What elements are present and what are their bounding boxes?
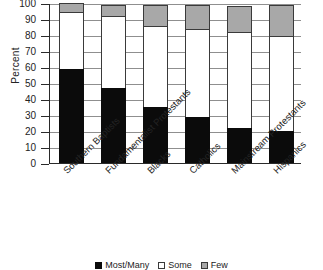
bar-segment-few [59, 3, 84, 13]
legend-label: Most/Many [105, 261, 149, 270]
y-tick-label: 100 [4, 0, 36, 9]
y-tick-label: 80 [4, 31, 36, 41]
bar-segment-few [143, 5, 168, 27]
bar-segment-few [269, 5, 294, 37]
bar-segment-few [101, 5, 126, 18]
gray-square-icon [201, 262, 208, 269]
y-tick-mark [41, 84, 49, 85]
x-axis-labels: Southern BaptistsFundamentalist Protesta… [0, 168, 323, 244]
bar-4 [185, 5, 210, 163]
y-tick-mark [41, 132, 49, 133]
bar-segment-some [185, 30, 210, 116]
bar-5 [227, 6, 252, 163]
y-tick-label: 20 [4, 127, 36, 137]
y-tick-label: 90 [4, 15, 36, 25]
legend-label: Some [168, 261, 192, 270]
y-tick-mark [41, 36, 49, 37]
bar-segment-some [101, 17, 126, 87]
stacked-bar-chart: Percent 0102030405060708090100 Southern … [0, 0, 323, 270]
y-tick-label: 50 [4, 79, 36, 89]
bar-segment-some [59, 13, 84, 69]
y-tick-mark [41, 164, 49, 165]
y-tick-mark [41, 68, 49, 69]
y-tick-mark [41, 52, 49, 53]
chart-legend: Most/ManySomeFew [0, 261, 323, 270]
white-square-icon [158, 262, 165, 269]
black-square-icon [95, 262, 102, 269]
y-tick-label: 40 [4, 95, 36, 105]
y-tick-label: 30 [4, 111, 36, 121]
y-tick-label: 70 [4, 47, 36, 57]
bar-segment-few [227, 6, 252, 33]
y-tick-mark [41, 148, 49, 149]
legend-item-most-many: Most/Many [95, 261, 149, 270]
y-tick-mark [41, 116, 49, 117]
y-tick-mark [41, 20, 49, 21]
bar-segment-some [143, 27, 168, 107]
legend-item-some: Some [158, 261, 192, 270]
legend-item-few: Few [201, 261, 228, 270]
y-tick-mark [41, 100, 49, 101]
bar-1 [59, 3, 84, 163]
y-tick-label: 60 [4, 63, 36, 73]
bar-segment-some [227, 33, 252, 127]
y-tick-mark [41, 4, 49, 5]
y-tick-label: 10 [4, 143, 36, 153]
bar-segment-few [185, 5, 210, 31]
legend-label: Few [211, 261, 228, 270]
